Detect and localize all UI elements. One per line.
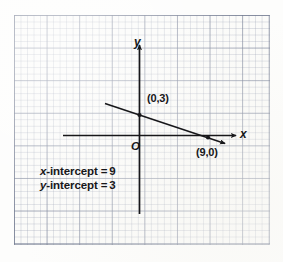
x-intercept-note-word: -intercept [46, 165, 97, 177]
x-intercept-note-value: 9 [109, 165, 115, 177]
y-intercept-note: y-intercept=3 [40, 180, 116, 192]
y-intercept-dot [137, 113, 141, 117]
y-axis-label: y [134, 36, 141, 48]
y-intercept-note-word: -intercept [46, 179, 97, 191]
y-intercept-note-value: 3 [109, 179, 115, 191]
x-axis-label: x [240, 128, 247, 140]
x-intercept-point-label: (9,0) [196, 147, 218, 158]
y-intercept-point-label: (0,3) [147, 93, 169, 104]
y-intercept-note-equals: = [101, 179, 108, 191]
x-intercept-note-equals: = [101, 165, 108, 177]
origin-label: O [131, 141, 140, 153]
figure-page: y x O (0,3) (9,0) x-intercept=9 y-interc… [0, 0, 283, 262]
x-intercept-note: x-intercept=9 [40, 166, 116, 178]
x-intercept-dot [206, 135, 210, 139]
